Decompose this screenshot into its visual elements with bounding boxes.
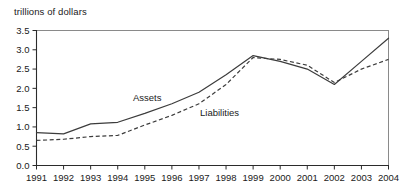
x-tick-label: 1992	[53, 172, 74, 183]
series-label-assets: Assets	[133, 92, 162, 103]
x-tick-label: 1999	[243, 172, 264, 183]
x-tick-label: 2001	[297, 172, 318, 183]
data-series-group	[37, 38, 389, 140]
x-tick-label: 1996	[161, 172, 182, 183]
y-tick-group: 0.00.51.01.52.02.53.03.5	[16, 25, 36, 171]
x-tick-label: 1995	[134, 172, 155, 183]
y-tick-label: 3.5	[16, 25, 29, 36]
y-tick-label: 0.5	[16, 141, 29, 152]
x-tick-label: 2000	[270, 172, 291, 183]
x-tick-label: 1993	[80, 172, 101, 183]
x-tick-label: 1998	[215, 172, 236, 183]
chart-container: trillions of dollars 0.00.51.01.52.02.53…	[0, 0, 406, 192]
y-tick-label: 0.0	[16, 160, 29, 171]
y-tick-label: 1.0	[16, 121, 29, 132]
y-tick-label: 3.0	[16, 44, 29, 55]
line-chart-plot: 0.00.51.01.52.02.53.03.5 199119921993199…	[0, 0, 406, 192]
x-tick-label: 1997	[188, 172, 209, 183]
series-label-liabilities: Liabilities	[200, 107, 239, 118]
y-tick-label: 2.0	[16, 83, 29, 94]
y-tick-label: 2.5	[16, 63, 29, 74]
x-tick-label: 2003	[351, 172, 372, 183]
series-line-liabilities	[37, 58, 389, 141]
x-tick-label: 2002	[324, 172, 345, 183]
series-line-assets	[37, 38, 389, 134]
x-tick-label: 2004	[378, 172, 399, 183]
x-tick-label: 1991	[26, 172, 47, 183]
x-tick-group: 1991199219931994199519961997199819992000…	[26, 166, 399, 183]
y-tick-label: 1.5	[16, 102, 29, 113]
series-annotation-group: AssetsLiabilities	[133, 92, 239, 118]
x-tick-label: 1994	[107, 172, 128, 183]
plot-frame	[37, 31, 389, 166]
